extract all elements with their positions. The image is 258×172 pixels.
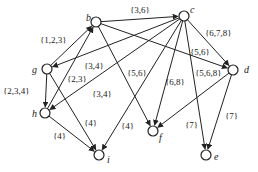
node-f bbox=[148, 126, 158, 136]
node-i bbox=[94, 150, 104, 160]
edge-label: {7} bbox=[185, 120, 198, 130]
node-label: h bbox=[32, 108, 37, 119]
edge-label: {4} bbox=[84, 118, 97, 128]
node-label: b bbox=[86, 12, 91, 23]
edge-label: {2,3} bbox=[67, 74, 87, 84]
node-g bbox=[42, 64, 52, 74]
edge-g-h bbox=[45, 74, 47, 107]
edge-label: {5,6,8} bbox=[195, 68, 222, 78]
node-label: c bbox=[190, 4, 195, 15]
edges-layer: {3,6}{1,2,3}{3,4}{2,3,4}{2,3}{3,4}{4}{4}… bbox=[3, 5, 238, 151]
edge-label: {1,2,3} bbox=[40, 35, 67, 45]
edge-c-d bbox=[187, 20, 229, 66]
edge-label: {6,7,8} bbox=[205, 28, 232, 38]
edge-label: {5,6} bbox=[127, 68, 147, 78]
edge-label: {4} bbox=[53, 131, 66, 141]
node-e bbox=[201, 150, 211, 160]
node-label: g bbox=[32, 64, 37, 75]
node-label: f bbox=[159, 132, 163, 143]
node-d bbox=[228, 65, 238, 75]
edge-label: {4} bbox=[121, 121, 134, 131]
node-c bbox=[179, 11, 189, 21]
node-label: d bbox=[244, 64, 250, 75]
node-label: i bbox=[107, 154, 110, 165]
edge-label: {3,6} bbox=[130, 5, 150, 15]
edge-label: {7} bbox=[225, 111, 238, 121]
node-h bbox=[40, 108, 50, 118]
edge-c-f bbox=[155, 21, 183, 125]
edge-label: {3,4} bbox=[92, 89, 112, 99]
edge-b-c bbox=[101, 16, 178, 21]
edge-c-h bbox=[50, 19, 180, 110]
edge-label: {2,3,4} bbox=[3, 86, 30, 96]
edge-label: {6,8} bbox=[165, 77, 185, 87]
node-b bbox=[91, 17, 101, 27]
edge-label: {5,6} bbox=[190, 47, 210, 57]
node-label: e bbox=[214, 151, 219, 162]
directed-graph: {3,6}{1,2,3}{3,4}{2,3,4}{2,3}{3,4}{4}{4}… bbox=[0, 0, 258, 172]
edge-label: {3,4} bbox=[84, 61, 104, 71]
